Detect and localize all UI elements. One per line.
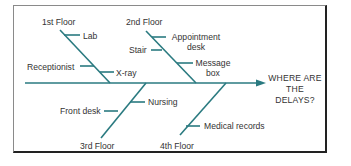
cause-appointment-line1: Appointment xyxy=(168,32,224,42)
cause-message-line1: Message xyxy=(193,58,233,68)
cause-message-box: Message box xyxy=(193,58,233,78)
category-floor3: 3rd Floor xyxy=(80,141,114,151)
effect-line2: THE DELAYS? xyxy=(268,84,322,106)
cause-nursing: Nursing xyxy=(148,97,178,107)
effect-label: WHERE ARE THE DELAYS? xyxy=(268,73,322,106)
cause-medical-records: Medical records xyxy=(204,121,265,131)
cause-receptionist: Receptionist xyxy=(27,62,74,72)
category-floor1: 1st Floor xyxy=(42,17,75,27)
cause-lab: Lab xyxy=(83,31,97,41)
cause-stair: Stair xyxy=(129,45,147,55)
cause-xray: X-ray xyxy=(116,68,137,78)
category-floor2: 2nd Floor xyxy=(126,17,162,27)
arrowhead-icon xyxy=(256,80,266,87)
cause-appointment-line2: desk xyxy=(168,42,224,52)
effect-line1: WHERE ARE xyxy=(268,73,322,84)
cause-message-line2: box xyxy=(193,68,233,78)
cause-appointment-desk: Appointment desk xyxy=(168,32,224,52)
cause-front-desk: Front desk xyxy=(60,106,101,116)
category-floor4: 4th Floor xyxy=(160,141,194,151)
